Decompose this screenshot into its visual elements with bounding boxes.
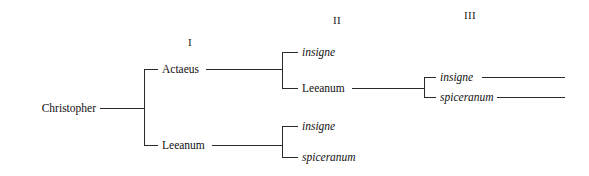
connector-leeanum1-to-spiceranum bbox=[282, 157, 298, 158]
connector-root-to-actaeus bbox=[144, 69, 158, 70]
level-header-i: I bbox=[188, 36, 192, 48]
connector-actaeus-to-insigne bbox=[282, 52, 298, 53]
connector-leeanum2-to-spiceranum bbox=[424, 97, 436, 98]
connector-actaeus-stem bbox=[206, 69, 282, 70]
node-level1-leeanum: Leeanum bbox=[162, 139, 205, 151]
node-level2-leeanum: Leeanum bbox=[302, 82, 345, 94]
node-level3-insigne: insigne bbox=[440, 71, 473, 83]
connector-root-stem bbox=[100, 108, 144, 109]
node-root-christopher: Christopher bbox=[42, 102, 96, 114]
connector-root-to-leeanum bbox=[144, 145, 158, 146]
connector-leeanum2-stem bbox=[352, 88, 424, 89]
level-header-iii: III bbox=[464, 9, 476, 21]
node-level2-spiceranum-lower: spiceranum bbox=[302, 151, 356, 163]
connector-leeanum2-bracket bbox=[424, 77, 425, 97]
connector-actaeus-bracket bbox=[282, 52, 283, 88]
level-header-ii: II bbox=[333, 14, 341, 26]
connector-root-bracket bbox=[144, 69, 145, 145]
connector-leeanum2-to-insigne bbox=[424, 77, 436, 78]
connector-actaeus-to-leeanum bbox=[282, 88, 298, 89]
connector-spiceranum3-tail bbox=[497, 97, 565, 98]
connector-leeanum1-to-insigne bbox=[282, 126, 298, 127]
node-level2-insigne-upper: insigne bbox=[302, 46, 335, 58]
connector-leeanum1-bracket bbox=[282, 126, 283, 157]
node-level3-spiceranum: spiceranum bbox=[440, 91, 494, 103]
node-level2-insigne-lower: insigne bbox=[302, 120, 335, 132]
connector-insigne3-tail bbox=[482, 77, 565, 78]
connector-leeanum1-stem bbox=[212, 145, 282, 146]
node-level1-actaeus: Actaeus bbox=[162, 63, 199, 75]
taxonomic-tree-diagram: I II III Christopher Actaeus Leeanum ins… bbox=[0, 0, 589, 176]
